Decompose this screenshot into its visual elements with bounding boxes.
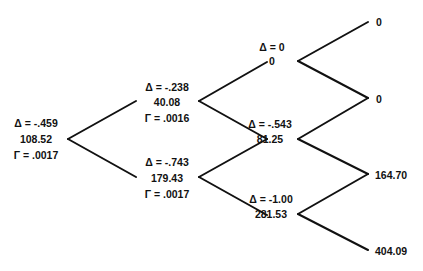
node-uu2-delta: Δ = 0 xyxy=(259,41,284,53)
node-d1-delta: Δ = -.743 xyxy=(145,156,188,168)
node-ud2-delta: Δ = -.543 xyxy=(248,118,291,130)
node-u1-value: 40.08 xyxy=(154,96,180,108)
node-u1-delta: Δ = -.238 xyxy=(145,81,188,93)
node-u1-gamma: Γ = .0016 xyxy=(145,112,190,124)
node-uu2-value: 0 xyxy=(269,55,275,67)
edge-dd2-ddd3 xyxy=(298,214,368,250)
leaf-uud3-value: 0 xyxy=(376,93,382,105)
node-root-value: 108.52 xyxy=(20,133,52,145)
leaf-uuu3-value: 0 xyxy=(376,16,382,28)
leaf-ddd3-value: 404.09 xyxy=(375,245,407,257)
edge-u1-uu2 xyxy=(199,62,267,101)
edge-ud2-udd3 xyxy=(298,139,368,174)
node-dd2-delta: Δ = -1.00 xyxy=(249,193,292,205)
edge-uu2-uuu3 xyxy=(298,22,368,61)
edge-dd2-udd3 xyxy=(298,174,368,214)
edge-n0-u1 xyxy=(68,101,136,139)
node-root-gamma: Γ = .0017 xyxy=(14,149,59,161)
edge-uu2-uud3 xyxy=(298,61,368,98)
node-dd2-value: 281.53 xyxy=(255,208,287,220)
node-d1-value: 179.43 xyxy=(151,172,183,184)
leaf-udd3-value: 164.70 xyxy=(375,169,407,181)
node-d1-gamma: Γ = .0017 xyxy=(145,188,190,200)
node-ud2-value: 81.25 xyxy=(257,133,283,145)
tree-edges xyxy=(0,0,423,271)
node-root-delta: Δ = -.459 xyxy=(14,117,57,129)
edge-ud2-uud3 xyxy=(298,98,368,139)
edge-n0-d1 xyxy=(68,139,136,177)
